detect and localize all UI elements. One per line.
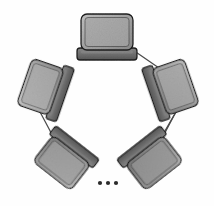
ring-topology-diagram [0, 0, 214, 206]
laptop-base-highlight [81, 51, 133, 54]
laptop-node-lower-right[interactable] [117, 126, 187, 193]
ellipsis-dot-2 [106, 181, 110, 185]
diagram-canvas [0, 0, 214, 206]
laptop-node-lower-left[interactable] [30, 126, 100, 193]
ellipsis-dot-1 [98, 181, 102, 185]
laptop-node-upper-right[interactable] [141, 55, 200, 122]
ellipsis-dot-3 [114, 181, 118, 185]
laptop-node-upper-left[interactable] [15, 55, 74, 122]
laptop-screen-display [85, 18, 129, 47]
laptop-node-top[interactable] [77, 14, 137, 60]
ring-continuation-ellipsis [98, 181, 118, 185]
